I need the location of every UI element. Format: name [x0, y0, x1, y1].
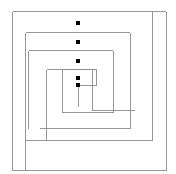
marker-dot-1	[76, 21, 79, 24]
marker-dot-2	[76, 40, 79, 43]
spiral-figure-canvas	[0, 0, 176, 174]
marker-dot-5	[76, 83, 79, 86]
marker-dot-4	[76, 76, 79, 79]
spiral-diagram	[0, 0, 176, 174]
marker-dot-3	[76, 59, 79, 62]
figure-background	[0, 0, 176, 174]
